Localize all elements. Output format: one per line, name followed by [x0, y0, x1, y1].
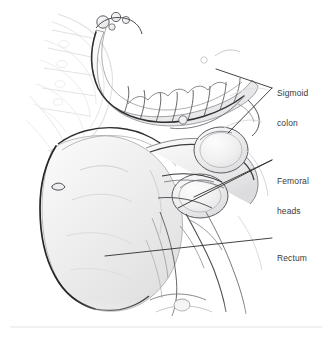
label-rectum: Rectum — [277, 233, 307, 283]
figure-container: Sigmoid colon Femoral heads Rectum — [0, 0, 330, 347]
bottom-divider — [0, 320, 330, 334]
label-sigmoid-colon-line2: colon — [277, 118, 308, 128]
leader-sigmoid-upper — [216, 69, 272, 88]
label-femoral-heads: Femoral heads — [277, 156, 309, 236]
label-sigmoid-colon-line1: Sigmoid — [277, 88, 308, 98]
sigmoid-colon-shape — [92, 12, 258, 126]
label-femoral-heads-line1: Femoral — [277, 176, 309, 186]
label-rectum-line1: Rectum — [277, 253, 307, 263]
label-sigmoid-colon: Sigmoid colon — [277, 68, 308, 148]
label-femoral-heads-line2: heads — [277, 206, 309, 216]
